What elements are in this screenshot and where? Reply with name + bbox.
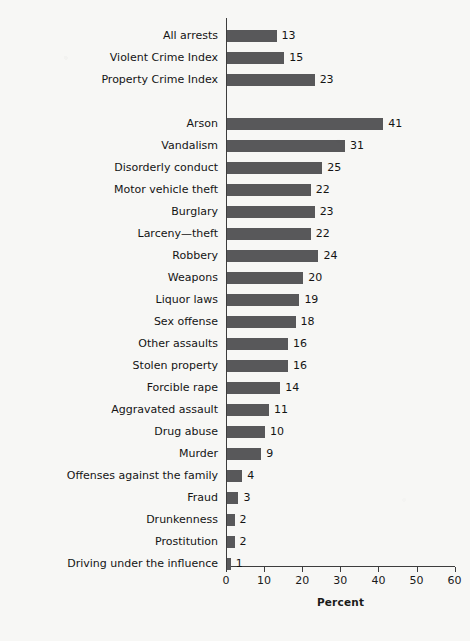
bar — [227, 250, 318, 262]
bar-row: Stolen property16 — [0, 360, 470, 372]
bar-category-label: Offenses against the family — [67, 468, 218, 483]
bar-row: Sex offense18 — [0, 316, 470, 328]
bar-row: Arson41 — [0, 118, 470, 130]
bar-row: Other assaults16 — [0, 338, 470, 350]
bar-value-label: 13 — [282, 28, 296, 43]
bar — [227, 294, 299, 306]
bar — [227, 52, 284, 64]
bar — [227, 470, 242, 482]
bar-category-label: Aggravated assault — [111, 402, 218, 417]
bar-row: Drug abuse10 — [0, 426, 470, 438]
bar-value-label: 22 — [316, 182, 330, 197]
bar-value-label: 1 — [236, 556, 243, 571]
bar-row: Fraud3 — [0, 492, 470, 504]
x-axis-tick-label: 0 — [223, 574, 230, 587]
bar — [227, 316, 296, 328]
bar-value-label: 4 — [247, 468, 254, 483]
bar-category-label: Vandalism — [161, 138, 218, 153]
bar-row: Murder9 — [0, 448, 470, 460]
bar-value-label: 23 — [320, 72, 334, 87]
bar-category-label: Fraud — [187, 490, 218, 505]
bar — [227, 448, 261, 460]
bar-value-label: 14 — [285, 380, 299, 395]
bar-value-label: 2 — [240, 512, 247, 527]
bar — [227, 558, 231, 570]
bar-value-label: 23 — [320, 204, 334, 219]
bar — [227, 536, 235, 548]
bar-value-label: 24 — [323, 248, 337, 263]
bar-row: Motor vehicle theft22 — [0, 184, 470, 196]
bar — [227, 184, 311, 196]
bar-value-label: 19 — [304, 292, 318, 307]
bar-category-label: Violent Crime Index — [110, 50, 218, 65]
bar-value-label: 22 — [316, 226, 330, 241]
bar-row: Larceny—theft22 — [0, 228, 470, 240]
bar — [227, 338, 288, 350]
bar-category-label: Liquor laws — [156, 292, 218, 307]
bar-row: Forcible rape14 — [0, 382, 470, 394]
bar-category-label: Arson — [187, 116, 218, 131]
bar-row: Violent Crime Index15 — [0, 52, 470, 64]
x-axis-title: Percent — [226, 596, 455, 608]
x-axis-tick-label: 50 — [410, 574, 424, 587]
bar-row: Prostitution2 — [0, 536, 470, 548]
bar-row: Vandalism31 — [0, 140, 470, 152]
bar — [227, 118, 383, 130]
bar — [227, 272, 303, 284]
bar-value-label: 3 — [243, 490, 250, 505]
bar-category-label: Sex offense — [154, 314, 218, 329]
bar-category-label: Driving under the influence — [67, 556, 218, 571]
bar-row: Weapons20 — [0, 272, 470, 284]
bar-row: Burglary23 — [0, 206, 470, 218]
bar-row: Drunkenness2 — [0, 514, 470, 526]
chart-figure: 0102030405060 Percent All arrests13Viole… — [0, 0, 470, 641]
bar-category-label: Property Crime Index — [101, 72, 218, 87]
bar-category-label: Forcible rape — [147, 380, 218, 395]
bar-value-label: 31 — [350, 138, 364, 153]
bar — [227, 228, 311, 240]
bar-value-label: 16 — [293, 358, 307, 373]
bar-category-label: Murder — [179, 446, 218, 461]
bar-row: Aggravated assault11 — [0, 404, 470, 416]
x-axis-tick-label: 30 — [333, 574, 347, 587]
bar — [227, 514, 235, 526]
bar-row: Property Crime Index23 — [0, 74, 470, 86]
x-axis-tick-label: 60 — [448, 574, 462, 587]
bar — [227, 382, 280, 394]
bar — [227, 74, 315, 86]
bar — [227, 426, 265, 438]
bar-category-label: Weapons — [168, 270, 218, 285]
x-axis-tick-label: 10 — [257, 574, 271, 587]
bar-category-label: Robbery — [172, 248, 218, 263]
bar-value-label: 15 — [289, 50, 303, 65]
bar — [227, 404, 269, 416]
bar-category-label: Drug abuse — [154, 424, 218, 439]
bar-row: All arrests13 — [0, 30, 470, 42]
bar — [227, 360, 288, 372]
bar-value-label: 11 — [274, 402, 288, 417]
bar — [227, 30, 277, 42]
x-axis-tick-label: 20 — [295, 574, 309, 587]
bar-category-label: Drunkenness — [146, 512, 218, 527]
bar-value-label: 2 — [240, 534, 247, 549]
bar-category-label: Motor vehicle theft — [114, 182, 218, 197]
bar-category-label: Burglary — [171, 204, 218, 219]
bar-row: Driving under the influence1 — [0, 558, 470, 570]
y-axis-line — [226, 18, 227, 566]
bar — [227, 206, 315, 218]
bar-row: Disorderly conduct25 — [0, 162, 470, 174]
bar-value-label: 18 — [301, 314, 315, 329]
bar-category-label: Other assaults — [138, 336, 218, 351]
bar-value-label: 16 — [293, 336, 307, 351]
bar-row: Offenses against the family4 — [0, 470, 470, 482]
bar — [227, 140, 345, 152]
bar-category-label: Disorderly conduct — [114, 160, 218, 175]
bar-value-label: 9 — [266, 446, 273, 461]
bar-category-label: Larceny—theft — [138, 226, 219, 241]
bar — [227, 162, 322, 174]
bar-value-label: 25 — [327, 160, 341, 175]
bar-value-label: 10 — [270, 424, 284, 439]
bar-category-label: Prostitution — [155, 534, 218, 549]
bar-row: Robbery24 — [0, 250, 470, 262]
bar — [227, 492, 238, 504]
